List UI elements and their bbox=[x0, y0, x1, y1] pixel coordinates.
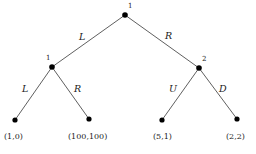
terminal-node bbox=[234, 116, 239, 121]
decision-node bbox=[122, 12, 128, 18]
edge-action-label: D bbox=[219, 84, 227, 94]
tree-edge bbox=[52, 15, 125, 67]
decision-node bbox=[196, 65, 202, 71]
payoff-label: (2,2) bbox=[226, 133, 245, 141]
decision-node bbox=[49, 64, 55, 70]
node-player-label: 1 bbox=[128, 3, 132, 10]
edge-action-label: U bbox=[169, 84, 177, 94]
terminal-node bbox=[86, 116, 91, 121]
game-tree-figure: 112 LRLRUD (1,0)(100,100)(5,1)(2,2) bbox=[0, 0, 256, 154]
nodes-group bbox=[12, 12, 239, 122]
payoff-label: (1,0) bbox=[4, 133, 23, 141]
tree-edge bbox=[125, 15, 199, 68]
edge-action-label: R bbox=[165, 31, 172, 41]
edge-action-label: R bbox=[74, 84, 81, 94]
payoff-label: (100,100) bbox=[68, 133, 107, 141]
edge-action-label: L bbox=[79, 32, 85, 42]
edges-group bbox=[15, 15, 237, 120]
tree-canvas bbox=[0, 0, 256, 154]
terminal-node bbox=[12, 117, 17, 122]
payoff-label: (5,1) bbox=[153, 133, 172, 141]
edge-action-label: L bbox=[22, 84, 28, 94]
terminal-node bbox=[159, 117, 164, 122]
node-player-label: 2 bbox=[202, 56, 206, 63]
node-player-label: 1 bbox=[46, 55, 50, 62]
tree-edge bbox=[52, 67, 89, 119]
tree-edge bbox=[199, 68, 237, 119]
tree-edge bbox=[162, 68, 199, 120]
tree-edge bbox=[15, 67, 52, 120]
